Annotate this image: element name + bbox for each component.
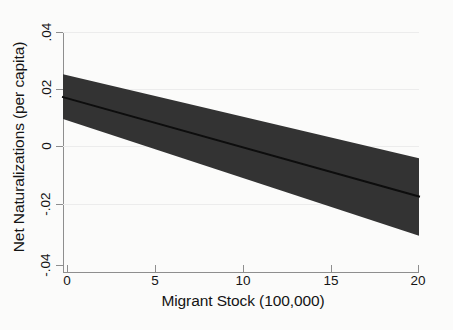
y-tick-mark-2 — [56, 146, 63, 147]
x-tick-label-3: 15 — [311, 273, 351, 288]
y-tick-mark-0 — [56, 32, 63, 33]
y-tick-label-0: .04 — [39, 15, 55, 49]
x-tick-label-2: 10 — [223, 273, 263, 288]
y-axis-title: Net Naturalizations (per capita) — [6, 2, 32, 292]
x-tick-label-1: 5 — [135, 273, 175, 288]
confidence-interval-band — [63, 32, 419, 272]
x-tick-label-0: 0 — [47, 273, 87, 288]
x-tick-label-4: 20 — [398, 273, 438, 288]
plot-area — [63, 32, 419, 272]
y-tick-mark-3 — [56, 204, 63, 205]
ci-polygon — [63, 74, 419, 235]
x-axis-title: Migrant Stock (100,000) — [63, 292, 423, 310]
y-tick-mark-1 — [56, 89, 63, 90]
y-tick-label-3: -.02 — [38, 184, 54, 224]
chart-figure: Net Naturalizations (per capita) .04 .02… — [0, 0, 453, 330]
y-tick-mark-4 — [56, 265, 63, 266]
y-tick-label-1: .02 — [39, 72, 55, 106]
y-tick-label-2: 0 — [39, 131, 55, 161]
